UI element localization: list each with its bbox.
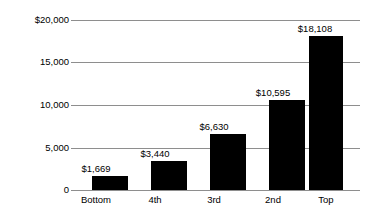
y-tick-label-20000: $20,000 [0, 15, 69, 25]
y-tick-mark-20000 [71, 20, 78, 21]
x-axis-label-top: Top [288, 194, 364, 205]
bar-top[interactable] [309, 36, 343, 190]
gridline-20000 [78, 20, 360, 21]
bar-value-top: $18,108 [281, 23, 349, 34]
bar-chart: Per-Capita Income $20,000 15,000 10,000 … [0, 0, 371, 218]
y-tick-label-5000: 5,000 [0, 143, 69, 153]
bar-value-2nd: $10,595 [239, 87, 307, 98]
bar-2nd[interactable] [269, 100, 305, 190]
bar-value-bottom: $1,669 [62, 163, 130, 174]
bar-3rd[interactable] [210, 134, 246, 190]
y-tick-label-15000: 15,000 [0, 57, 69, 67]
bar-bottom[interactable] [92, 176, 128, 190]
y-tick-mark-5000 [71, 148, 78, 149]
bar-value-3rd: $6,630 [180, 121, 248, 132]
bar-value-4th: $3,440 [121, 148, 189, 159]
y-tick-mark-10000 [71, 105, 78, 106]
gridline-baseline-0 [78, 190, 360, 191]
y-tick-mark-15000 [71, 62, 78, 63]
bar-4th[interactable] [151, 161, 187, 190]
y-tick-mark-0 [71, 190, 78, 191]
y-tick-label-10000: 10,000 [0, 100, 69, 110]
